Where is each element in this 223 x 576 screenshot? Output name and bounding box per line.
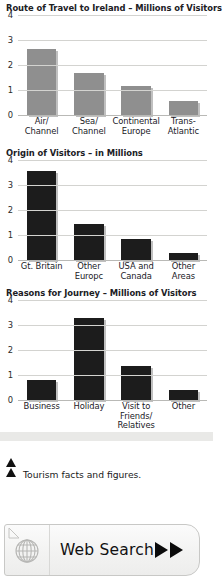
web-search-label: Web Search [50, 541, 155, 559]
y-tick-label: 1 [8, 231, 13, 239]
y-tick-label: 4 [8, 296, 13, 304]
x-tick-label: Holiday [65, 402, 112, 431]
x-axis: BusinessHolidayVisit toFriends/Relatives… [18, 400, 207, 431]
plot-area: 43210 [0, 15, 213, 115]
gridline [18, 160, 207, 161]
y-tick-label: 2 [8, 61, 13, 69]
plot-area: 43210 [0, 160, 213, 260]
grid [18, 15, 207, 115]
bar [169, 390, 198, 400]
bar [121, 239, 150, 260]
y-tick-label: 3 [8, 181, 13, 189]
x-tick-label: OtherEuropc [65, 262, 112, 281]
y-tick-label: 1 [8, 371, 13, 379]
chart-route-of-travel: Route of Travel to Ireland – Millions of… [0, 3, 213, 136]
y-tick-label: 2 [8, 346, 13, 354]
web-search-icon-box [5, 525, 50, 575]
x-tick-label: Other [160, 402, 207, 431]
y-tick-label: 3 [8, 321, 13, 329]
gridline [18, 260, 207, 261]
bar [27, 49, 56, 115]
x-tick-label: Gt. Britain [18, 262, 65, 281]
play-arrow-icon [155, 542, 168, 558]
gridline [18, 400, 207, 401]
caption-label: Tourism facts and figures. [23, 469, 141, 480]
y-tick-label: 0 [8, 396, 13, 404]
y-tick-label: 0 [8, 256, 13, 264]
y-axis: 43210 [0, 300, 18, 400]
x-axis: Air/ChannelSea/ChannelContinentalEuropeT… [18, 115, 207, 136]
triangle-up-icon [6, 458, 18, 477]
gridline [18, 90, 207, 91]
bar [121, 86, 150, 115]
chart-reasons-for-journey: Reasons for Journey – Millions of Visito… [0, 288, 213, 431]
gridline [18, 300, 207, 301]
y-tick-label: 4 [8, 11, 13, 19]
globe-icon [12, 536, 42, 566]
section-divider-band [0, 432, 213, 441]
y-tick-label: 1 [8, 86, 13, 94]
x-tick-label: OtherAreas [160, 262, 207, 281]
x-tick-label: Trans-Atlantic [160, 117, 207, 136]
gridline [18, 40, 207, 41]
web-search-button[interactable]: Web Search [4, 524, 200, 576]
bar [74, 73, 103, 115]
x-tick-label: USA andCanada [113, 262, 160, 281]
play-arrow-icon [170, 542, 183, 558]
x-tick-label: Air/Channel [18, 117, 65, 136]
y-axis: 43210 [0, 160, 18, 260]
bar [74, 318, 103, 401]
grid [18, 300, 207, 400]
bar [121, 366, 150, 400]
gridline [18, 185, 207, 186]
x-tick-label: ContinentalEurope [112, 117, 159, 136]
chart-origin-of-visitors: Origin of Visitors – in Millions 43210 G… [0, 148, 213, 281]
gridline [18, 235, 207, 236]
x-tick-label: Sea/Channel [65, 117, 112, 136]
y-tick-label: 2 [8, 206, 13, 214]
y-tick-label: 0 [8, 111, 13, 119]
bar [27, 380, 56, 400]
bar [169, 101, 198, 115]
gridline [18, 65, 207, 66]
gridline [18, 15, 207, 16]
y-tick-label: 3 [8, 36, 13, 44]
bar [74, 224, 103, 260]
chart-title: Route of Travel to Ireland – Millions of… [6, 3, 213, 13]
grid [18, 160, 207, 260]
chart-title: Origin of Visitors – in Millions [6, 148, 213, 158]
chart-title: Reasons for Journey – Millions of Visito… [6, 288, 213, 298]
x-axis: Gt. BritainOtherEuropcUSA andCanadaOther… [18, 260, 207, 281]
web-search-arrows[interactable] [155, 542, 199, 558]
gridline [18, 375, 207, 376]
gridline [18, 115, 207, 116]
y-tick-label: 4 [8, 156, 13, 164]
plot-area: 43210 [0, 300, 213, 400]
y-axis: 43210 [0, 15, 18, 115]
x-tick-label: Visit toFriends/Relatives [113, 402, 160, 431]
gridline [18, 325, 207, 326]
gridline [18, 210, 207, 211]
gridline [18, 350, 207, 351]
x-tick-label: Business [18, 402, 65, 431]
